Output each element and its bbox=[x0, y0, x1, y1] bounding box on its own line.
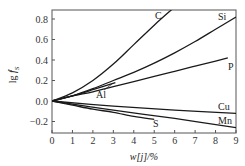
x-tick-label: 4 bbox=[131, 135, 136, 146]
x-tick-label: 3 bbox=[111, 135, 116, 146]
y-tick-label: −0.2 bbox=[30, 116, 48, 127]
x-tick-label: 6 bbox=[172, 135, 177, 146]
chart: −0.20.00.20.40.60.8 0123456789 CSiPAlCuM… bbox=[0, 0, 245, 166]
series-label-mn: Mn bbox=[218, 115, 232, 126]
x-tick-label: 2 bbox=[90, 135, 95, 146]
x-tick-label: 5 bbox=[152, 135, 157, 146]
y-axis-title: lg fSj bbox=[6, 66, 21, 83]
series-label-p: P bbox=[228, 61, 234, 72]
y-tick-label: 0.8 bbox=[36, 14, 49, 25]
series-lines bbox=[52, 9, 236, 128]
y-tick-label: 0.6 bbox=[36, 34, 49, 45]
x-tick-label: 8 bbox=[213, 135, 218, 146]
x-tick-label: 0 bbox=[50, 135, 55, 146]
y-axis: −0.20.00.20.40.60.8 bbox=[30, 14, 55, 128]
y-tick-label: 0.0 bbox=[36, 96, 49, 107]
svg-text:lg fSj: lg fSj bbox=[6, 66, 21, 83]
series-line-mn bbox=[52, 101, 236, 128]
x-tick-label: 7 bbox=[193, 135, 198, 146]
y-tick-label: 0.4 bbox=[36, 55, 49, 66]
series-label-cu: Cu bbox=[218, 101, 230, 112]
x-tick-label: 1 bbox=[70, 135, 75, 146]
series-line-s bbox=[52, 101, 154, 119]
series-label-al: Al bbox=[96, 89, 106, 100]
x-tick-label: 9 bbox=[234, 135, 239, 146]
x-axis-title: w[j]/% bbox=[130, 151, 158, 162]
series-label-c: C bbox=[155, 10, 162, 21]
y-tick-label: 0.2 bbox=[36, 75, 49, 86]
series-label-si: Si bbox=[218, 11, 227, 22]
x-axis: 0123456789 bbox=[50, 130, 239, 146]
series-label-s: S bbox=[153, 118, 159, 129]
